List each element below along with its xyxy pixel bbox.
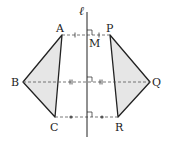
right-angle-mark-bq bbox=[87, 77, 92, 82]
dot-mark-right bbox=[100, 115, 103, 118]
vertex-label-p: P bbox=[106, 22, 114, 35]
vertex-label-r: R bbox=[115, 121, 124, 134]
reflection-diagram: ℓ A P M B Q C R bbox=[0, 0, 170, 145]
triangle-pqr bbox=[110, 35, 150, 117]
axis-label-l: ℓ bbox=[79, 4, 84, 18]
midpoint-label-m: M bbox=[89, 37, 100, 50]
dot-mark-left bbox=[69, 115, 72, 118]
diagram-canvas: ℓ A P M B Q C R bbox=[0, 0, 170, 145]
vertex-label-c: C bbox=[50, 121, 58, 134]
vertex-label-q: Q bbox=[152, 76, 161, 89]
vertex-label-a: A bbox=[55, 22, 65, 35]
right-angle-mark-m bbox=[87, 30, 92, 35]
vertex-label-b: B bbox=[11, 76, 19, 89]
triangle-abc bbox=[23, 35, 62, 117]
right-angle-mark-cr bbox=[87, 112, 92, 117]
